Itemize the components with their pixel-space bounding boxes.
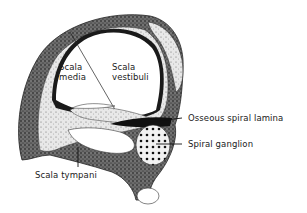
label-scala-vestibuli: Scala vestibuli xyxy=(112,62,149,82)
label-spiral-ganglion: Spiral ganglion xyxy=(188,139,253,149)
cochlea-diagram xyxy=(0,0,307,213)
spiral-ganglion-mass xyxy=(136,125,170,165)
label-scala-media: Scala media xyxy=(59,62,86,82)
label-osseous-spiral-lamina: Osseous spiral lamina xyxy=(188,113,283,123)
label-scala-media-line1: Scala xyxy=(59,62,86,72)
label-scala-media-line2: media xyxy=(59,72,86,82)
label-scala-vestibuli-line2: vestibuli xyxy=(112,72,149,82)
label-scala-tympani: Scala tympani xyxy=(35,170,97,180)
label-scala-vestibuli-line1: Scala xyxy=(112,62,149,72)
modiolus-canal xyxy=(137,188,159,204)
